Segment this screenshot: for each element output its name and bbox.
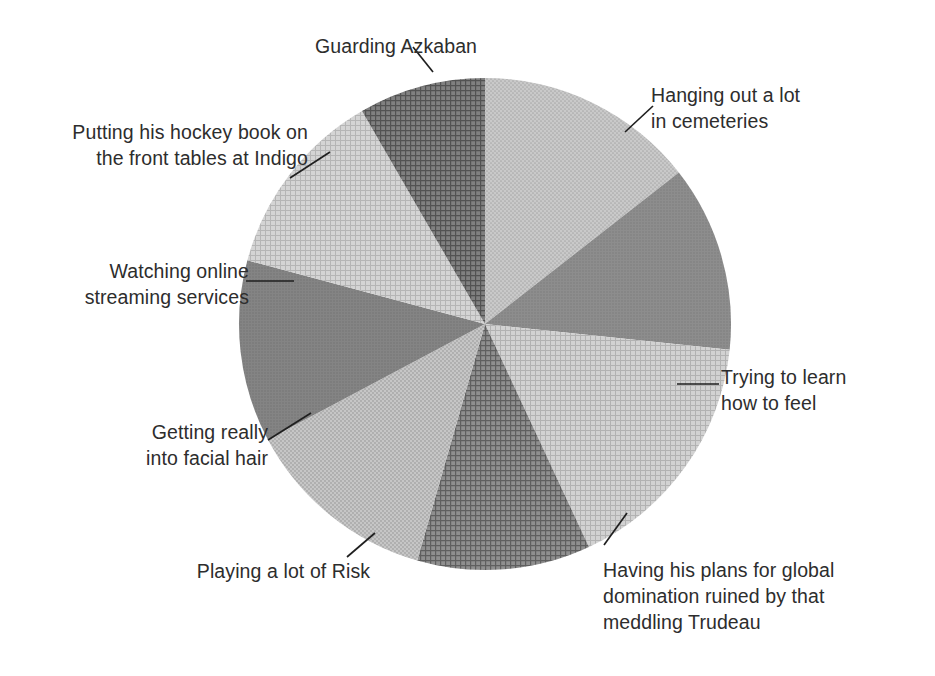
leader-line-cemeteries <box>625 106 653 132</box>
slice-label-guarding-azkaban: Guarding Azkaban <box>281 33 511 59</box>
slice-label-hanging-in-cemeteries: Hanging out a lot in cemeteries <box>651 82 871 134</box>
leader-line-risk <box>347 533 375 557</box>
pie-chart-figure: Guarding Azkaban Putting his hockey book… <box>0 0 935 676</box>
slice-label-learn-how-to-feel: Trying to learn how to feel <box>721 364 921 416</box>
slice-label-playing-risk: Playing a lot of Risk <box>176 558 391 584</box>
slice-label-online-streaming: Watching online streaming services <box>34 258 249 310</box>
slice-label-meddling-trudeau: Having his plans for global domination r… <box>603 557 883 635</box>
pie-slices-group <box>239 78 731 570</box>
slice-label-facial-hair: Getting really into facial hair <box>78 419 268 471</box>
slice-label-hockey-book-indigo: Putting his hockey book on the front tab… <box>18 119 308 171</box>
